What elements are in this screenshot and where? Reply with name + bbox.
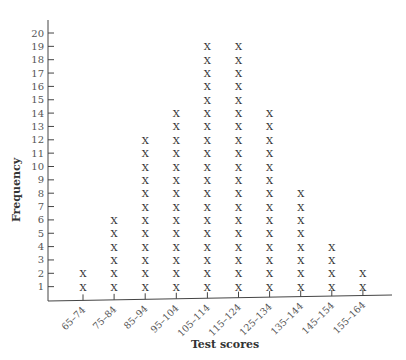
x-category-label: 65–74 <box>59 304 87 332</box>
x-marker: X <box>297 228 305 239</box>
x-marker: X <box>142 242 150 253</box>
x-marker: X <box>173 175 181 186</box>
y-tick-label: 18 <box>31 54 44 65</box>
x-marker: X <box>235 188 243 199</box>
dot-column: XXXXXXXX <box>297 188 305 292</box>
y-tick-label: 19 <box>31 41 44 52</box>
x-marker: X <box>266 108 274 119</box>
x-marker: X <box>235 228 243 239</box>
y-tick-label: 15 <box>31 94 44 105</box>
y-tick-label: 1 <box>38 281 44 292</box>
x-marker: X <box>142 282 150 293</box>
y-tick-label: 3 <box>38 254 44 265</box>
x-marker: X <box>173 135 181 146</box>
x-marker: X <box>142 228 150 239</box>
x-marker: X <box>173 202 181 213</box>
x-marker: X <box>235 282 243 293</box>
x-marker: X <box>235 81 243 92</box>
y-tick-label: 12 <box>31 134 44 145</box>
x-marker: X <box>142 175 150 186</box>
x-marker: X <box>235 68 243 79</box>
x-marker: X <box>235 121 243 132</box>
x-marker: X <box>266 282 274 293</box>
x-marker: X <box>204 162 212 173</box>
dot-column: XXXXXXXXXXXXXXXXXXX <box>235 41 243 292</box>
y-tick-label: 9 <box>38 174 44 185</box>
x-marker: X <box>297 268 305 279</box>
dot-plot-chart: 1234567891011121314151617181920 65–7475–… <box>0 0 406 360</box>
y-tick-label: 7 <box>38 201 44 212</box>
x-category-label: 135–144 <box>268 300 305 337</box>
x-marker: X <box>204 121 212 132</box>
y-axis-title: Frequency <box>10 157 23 222</box>
y-tick-label: 20 <box>31 28 44 39</box>
x-marker: X <box>142 268 150 279</box>
x-marker: X <box>266 228 274 239</box>
x-category-label: 145–154 <box>299 300 336 337</box>
x-marker: X <box>204 202 212 213</box>
x-marker: X <box>173 188 181 199</box>
x-marker: X <box>173 268 181 279</box>
x-axis-title: Test scores <box>191 338 259 351</box>
x-marker: X <box>204 135 212 146</box>
dot-column: XXXXXX <box>111 215 119 293</box>
y-tick-label: 10 <box>31 161 44 172</box>
x-marker: X <box>235 202 243 213</box>
x-marker: X <box>235 55 243 66</box>
x-category-label: 105–114 <box>175 302 212 339</box>
dot-column: XXXX <box>328 242 336 293</box>
x-marker: X <box>173 162 181 173</box>
x-marker: X <box>235 95 243 106</box>
x-marker: X <box>111 268 119 279</box>
x-category-label: 85–94 <box>121 303 149 331</box>
x-marker: X <box>328 242 336 253</box>
x-marker: X <box>173 255 181 266</box>
x-marker: X <box>142 202 150 213</box>
x-marker: X <box>204 228 212 239</box>
x-marker: X <box>204 255 212 266</box>
x-marker: X <box>204 282 212 293</box>
x-marker: X <box>235 175 243 186</box>
x-category-label: 115–124 <box>206 301 243 338</box>
x-category-label: 125–134 <box>237 301 274 338</box>
x-marker: X <box>79 268 87 279</box>
x-marker: X <box>111 282 119 293</box>
x-marker: X <box>266 121 274 132</box>
x-marker: X <box>142 215 150 226</box>
x-marker: X <box>111 215 119 226</box>
x-marker: X <box>173 282 181 293</box>
x-marker: X <box>266 242 274 253</box>
x-marker: X <box>142 148 150 159</box>
x-marker: X <box>142 162 150 173</box>
x-marker: X <box>297 255 305 266</box>
x-axis-ticks: 65–7475–8485–9495–104105–114115–124125–1… <box>59 290 367 339</box>
x-marker: X <box>235 242 243 253</box>
x-marker: X <box>297 188 305 199</box>
x-marker: X <box>204 242 212 253</box>
x-marker: X <box>204 55 212 66</box>
x-marker: X <box>173 215 181 226</box>
x-category-label: 155–164 <box>331 299 368 336</box>
x-marker: X <box>111 242 119 253</box>
x-marker: X <box>204 108 212 119</box>
x-marker: X <box>111 255 119 266</box>
data-marks: XXXXXXXXXXXXXXXXXXXXXXXXXXXXXXXXXXXXXXXX… <box>79 41 367 292</box>
x-marker: X <box>79 282 87 293</box>
x-marker: X <box>235 268 243 279</box>
x-marker: X <box>297 242 305 253</box>
x-marker: X <box>297 202 305 213</box>
x-marker: X <box>266 148 274 159</box>
dot-column: XX <box>79 268 87 292</box>
x-marker: X <box>111 228 119 239</box>
dot-column: XXXXXXXXXXXXXX <box>266 108 274 293</box>
y-tick-label: 17 <box>31 68 44 79</box>
x-category-label: 75–84 <box>90 303 118 331</box>
x-marker: X <box>266 268 274 279</box>
x-marker: X <box>142 135 150 146</box>
x-axis <box>48 295 392 301</box>
y-tick-label: 4 <box>38 241 44 252</box>
y-tick-label: 6 <box>38 214 44 225</box>
x-marker: X <box>328 255 336 266</box>
x-marker: X <box>266 202 274 213</box>
x-marker: X <box>328 268 336 279</box>
